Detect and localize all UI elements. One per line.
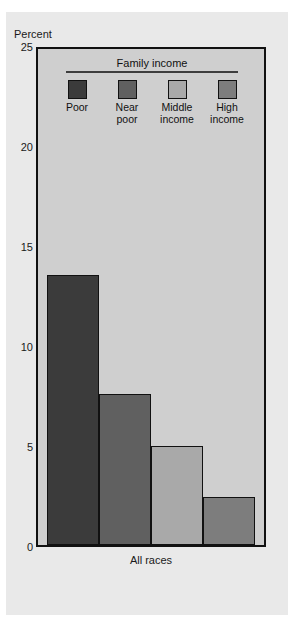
bar-poor	[47, 275, 99, 545]
legend-item-label: Near poor	[102, 102, 152, 125]
figure-container: Percent 0510152025 Family income PoorNea…	[0, 0, 294, 627]
y-axis-tick-20: 20	[1, 141, 33, 153]
y-axis-tick-0: 0	[1, 541, 33, 553]
legend-item-0[interactable]: Poor	[52, 80, 102, 125]
y-axis-tick-15: 15	[1, 241, 33, 253]
bar-near-poor	[99, 394, 151, 545]
legend-item-3[interactable]: High income	[202, 80, 252, 125]
y-axis-tick-25: 25	[1, 41, 33, 53]
x-axis-group-label: All races	[36, 554, 266, 566]
legend-items: PoorNear poorMiddle incomeHigh income	[52, 80, 252, 125]
y-axis-tick-10: 10	[1, 341, 33, 353]
legend-swatch-icon	[168, 80, 187, 99]
legend-divider	[66, 71, 238, 73]
y-axis-tick-labels: 0510152025	[0, 0, 33, 627]
legend-item-label: High income	[202, 102, 252, 125]
figure-title-strip	[0, 0, 294, 12]
bar-middle-income	[151, 446, 203, 545]
legend-title: Family income	[52, 57, 252, 69]
bar-high-income	[203, 497, 255, 545]
legend-item-1[interactable]: Near poor	[102, 80, 152, 125]
legend-swatch-icon	[118, 80, 137, 99]
y-axis-tick-5: 5	[1, 441, 33, 453]
legend-item-label: Poor	[52, 102, 102, 114]
legend-item-label: Middle income	[152, 102, 202, 125]
legend-item-2[interactable]: Middle income	[152, 80, 202, 125]
legend-swatch-icon	[218, 80, 237, 99]
legend: Family income PoorNear poorMiddle income…	[52, 57, 252, 125]
plot-inner: Family income PoorNear poorMiddle income…	[38, 49, 264, 545]
legend-swatch-icon	[68, 80, 87, 99]
plot-area: Family income PoorNear poorMiddle income…	[36, 47, 266, 547]
